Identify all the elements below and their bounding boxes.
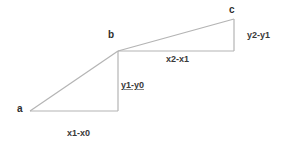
label-x1-x0: x1-x0 [67, 129, 90, 138]
point-b-label: b [108, 30, 114, 40]
point-c-label: c [229, 5, 235, 15]
segment-a-b [30, 51, 118, 111]
slope-diagram [0, 0, 288, 146]
label-x2-x1: x2-x1 [166, 55, 189, 64]
segment-b-c [118, 19, 234, 51]
label-y2-y1: y2-y1 [247, 31, 270, 40]
point-a-label: a [17, 104, 23, 114]
label-y1-y0: y1-y0 [121, 81, 144, 90]
